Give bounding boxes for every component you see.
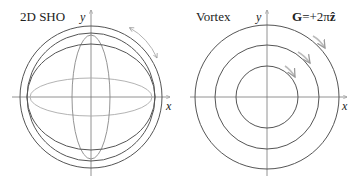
formula-value: =+2π bbox=[302, 9, 330, 24]
flow-arrow-icon bbox=[298, 52, 310, 63]
vortex-x-label: x bbox=[341, 99, 348, 113]
flow-arrow-icon bbox=[285, 66, 295, 77]
double-arrow-icon bbox=[130, 28, 157, 58]
formula-vector-g: G bbox=[292, 9, 302, 24]
sho-y-label: y bbox=[79, 10, 86, 24]
sho-x-label: x bbox=[165, 99, 172, 113]
sho-title: 2D SHO bbox=[20, 9, 65, 24]
vortex-y-label: y bbox=[255, 10, 262, 24]
sho-panel: 2D SHO y x bbox=[12, 9, 172, 176]
vortex-formula: G=+2πẑ bbox=[292, 9, 336, 24]
vortex-panel: Vortex y x G=+2πẑ bbox=[190, 9, 348, 176]
diagram-canvas: 2D SHO y x Vortex y x G=+2πẑ bbox=[0, 0, 364, 179]
vortex-title: Vortex bbox=[196, 9, 231, 24]
formula-unit-vector: ẑ bbox=[330, 9, 336, 24]
flow-arrow-icon bbox=[313, 36, 325, 48]
